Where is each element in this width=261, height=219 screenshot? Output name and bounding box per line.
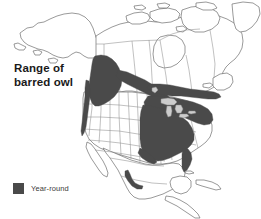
landmass-arctic-islet-a: [157, 3, 170, 8]
landmass-greenland-edge: [232, 2, 260, 32]
landmass-aleutian-islands: [14, 43, 26, 50]
filled-square-icon: [13, 183, 24, 194]
title-line-1: Range of: [14, 62, 100, 76]
landmass-yucatan-peninsula: [170, 176, 191, 194]
landmass-alaska: [20, 13, 99, 58]
page-title: Range of barred owl: [14, 62, 100, 89]
landmass-central-america: [165, 196, 200, 218]
legend-item-label: Year-round: [31, 184, 69, 193]
lake-huron: [175, 105, 183, 113]
range-map-figure: Range of barred owl Year-round: [0, 0, 261, 219]
landmass-banks-island: [126, 12, 150, 24]
title-line-2: barred owl: [14, 76, 100, 90]
landmass-alaska-island-west: [33, 50, 42, 55]
map-legend: Year-round: [13, 183, 69, 194]
landmass-arctic-islet-b: [134, 5, 146, 10]
landmass-cuba: [196, 180, 221, 190]
landmass-florida-keys: [185, 171, 194, 174]
